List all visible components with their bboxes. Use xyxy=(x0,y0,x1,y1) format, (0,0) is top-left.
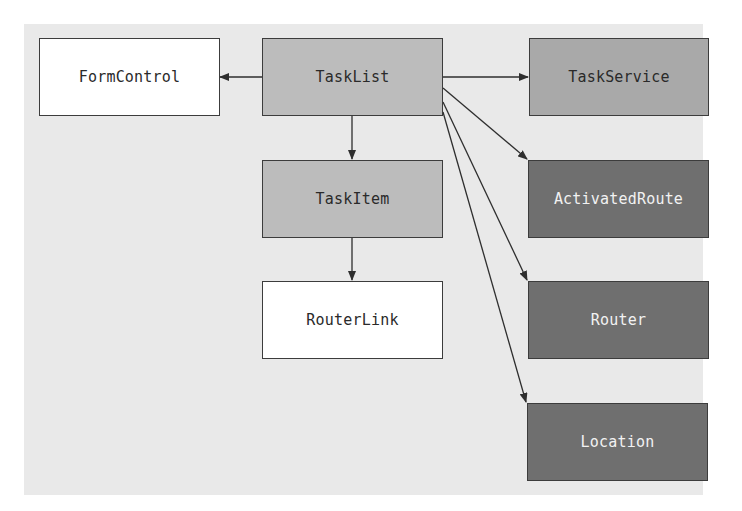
node-label: Router xyxy=(591,311,646,329)
node-label: TaskItem xyxy=(316,190,390,208)
node-label: RouterLink xyxy=(306,311,398,329)
node-tasklist: TaskList xyxy=(262,38,443,116)
node-routerlink: RouterLink xyxy=(262,281,443,359)
edge-tasklist-activatedroute xyxy=(443,88,527,159)
node-activatedroute: ActivatedRoute xyxy=(528,160,709,238)
node-router: Router xyxy=(528,281,709,359)
edge-tasklist-router xyxy=(443,102,527,280)
node-formcontrol: FormControl xyxy=(39,38,220,116)
node-label: Location xyxy=(581,433,655,451)
node-taskitem: TaskItem xyxy=(262,160,443,238)
node-label: FormControl xyxy=(79,68,181,86)
node-location: Location xyxy=(527,403,708,481)
node-label: ActivatedRoute xyxy=(554,190,683,208)
node-label: TaskService xyxy=(568,68,670,86)
node-label: TaskList xyxy=(316,68,390,86)
node-taskservice: TaskService xyxy=(529,38,709,116)
edge-tasklist-location xyxy=(443,112,526,402)
